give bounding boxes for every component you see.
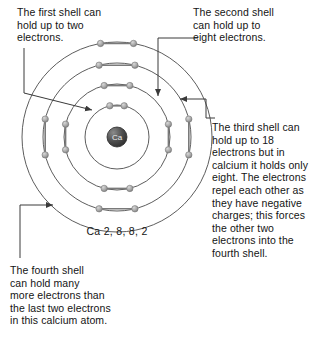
electron-dot: [42, 152, 48, 158]
electron-dot: [132, 62, 138, 68]
nucleus-label: Ca: [112, 133, 123, 142]
atom-diagram-stage: Ca The first shell can hold up to two el…: [0, 0, 324, 337]
third-shell-callout: The third shell can hold up to 18 electr…: [212, 121, 324, 260]
leader-first-shell: [24, 48, 92, 110]
fourth-shell-callout: The fourth shell can hold many more elec…: [10, 264, 150, 327]
electron-dot: [101, 82, 107, 88]
electron-dot: [107, 103, 113, 109]
nucleus: Ca: [107, 127, 127, 147]
electron-dot: [165, 147, 171, 153]
electron-dot: [62, 121, 68, 127]
electron-dot: [96, 206, 102, 212]
electron-dot: [96, 62, 102, 68]
electron-dot: [62, 147, 68, 153]
second-shell-callout: The second shell can hold up to eight el…: [193, 6, 319, 44]
electron-group: [42, 40, 192, 212]
first-shell-callout: The first shell can hold up to two elect…: [17, 6, 157, 44]
leader-second-shell: [158, 38, 198, 96]
electron-dot: [121, 103, 127, 109]
electron-dot: [132, 206, 138, 212]
electron-dot: [186, 152, 192, 158]
electron-dot: [127, 185, 133, 191]
electron-dot: [42, 116, 48, 122]
electron-dot: [127, 82, 133, 88]
electron-dot: [165, 121, 171, 127]
diagram-caption: Ca 2, 8, 8, 2: [0, 225, 234, 237]
electron-dot: [101, 185, 107, 191]
electron-dot: [186, 116, 192, 122]
